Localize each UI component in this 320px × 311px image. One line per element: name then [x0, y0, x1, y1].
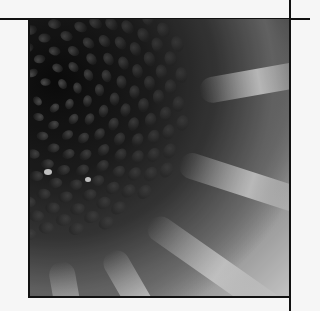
seed-head: [30, 19, 289, 296]
floret: [109, 198, 129, 216]
floret: [165, 79, 177, 95]
floret: [143, 75, 155, 90]
floret: [39, 222, 55, 234]
floret: [163, 50, 178, 68]
floret: [28, 41, 35, 53]
floret: [112, 147, 129, 165]
floret-highlight: [85, 177, 91, 182]
floret: [47, 119, 60, 130]
floret: [117, 55, 131, 71]
floret: [48, 45, 61, 56]
floret: [47, 19, 61, 30]
floret: [120, 103, 133, 118]
floret: [66, 59, 80, 73]
floret: [83, 111, 97, 126]
floret: [119, 182, 138, 201]
floret: [111, 131, 127, 148]
floret: [73, 81, 84, 94]
floret: [36, 188, 51, 199]
floret: [97, 32, 113, 49]
floret: [137, 97, 149, 112]
floret: [112, 34, 128, 51]
floret: [29, 171, 43, 182]
floret: [28, 195, 37, 208]
floret: [131, 63, 144, 79]
floret: [150, 36, 166, 55]
floret: [28, 210, 44, 223]
floret: [67, 112, 81, 126]
floret: [160, 141, 178, 161]
floret: [145, 146, 163, 165]
floret: [92, 126, 107, 142]
floret: [60, 129, 75, 142]
floret: [161, 122, 177, 140]
floret: [101, 51, 116, 67]
floret: [77, 147, 93, 162]
floret: [143, 112, 157, 129]
floret: [83, 94, 93, 107]
floret: [69, 201, 86, 216]
floret: [119, 19, 137, 36]
floret: [82, 67, 95, 81]
floret: [76, 130, 91, 145]
floret: [87, 19, 104, 32]
floret: [129, 148, 147, 166]
floret: [67, 221, 85, 236]
floret: [32, 112, 44, 123]
floret: [56, 163, 71, 176]
floret: [57, 191, 73, 204]
floret: [28, 148, 41, 159]
floret: [95, 84, 105, 97]
floret-highlight: [44, 169, 52, 175]
floret: [153, 89, 165, 104]
floret: [48, 102, 61, 114]
floret: [175, 66, 189, 83]
floret: [28, 24, 38, 36]
floret: [126, 116, 140, 133]
vertical-rule: [289, 0, 291, 311]
floret: [129, 85, 140, 99]
floret: [157, 160, 176, 180]
floret: [128, 41, 144, 59]
floret: [81, 35, 97, 51]
floret: [64, 98, 75, 111]
floret: [37, 132, 49, 141]
floret: [103, 19, 121, 32]
floret: [66, 43, 81, 57]
floret: [135, 25, 152, 44]
floret: [171, 96, 184, 113]
floret: [110, 92, 120, 105]
floret: [47, 142, 60, 153]
floret: [74, 163, 91, 178]
floret: [116, 75, 128, 90]
floret: [28, 227, 37, 241]
floret: [61, 147, 76, 160]
floret: [80, 188, 98, 204]
floret: [98, 104, 110, 119]
floret: [59, 29, 74, 42]
floret: [34, 54, 46, 64]
floret: [84, 51, 99, 66]
floret: [89, 173, 107, 189]
floret: [129, 131, 145, 149]
floret: [95, 141, 111, 157]
floret: [28, 67, 40, 79]
floret: [55, 213, 72, 226]
floret: [141, 164, 160, 184]
floret: [41, 159, 54, 169]
coneflower-photo: [28, 19, 289, 298]
floret: [158, 105, 172, 122]
floret: [175, 114, 191, 133]
floret: [56, 77, 68, 90]
floret: [135, 182, 155, 202]
floret: [45, 202, 60, 214]
floret: [50, 62, 63, 74]
floret: [68, 178, 85, 192]
floret: [31, 95, 43, 107]
floret: [142, 50, 157, 67]
floret: [110, 163, 128, 181]
floret: [48, 177, 63, 189]
floret: [39, 33, 51, 42]
floret: [107, 116, 121, 132]
floret: [126, 165, 145, 184]
